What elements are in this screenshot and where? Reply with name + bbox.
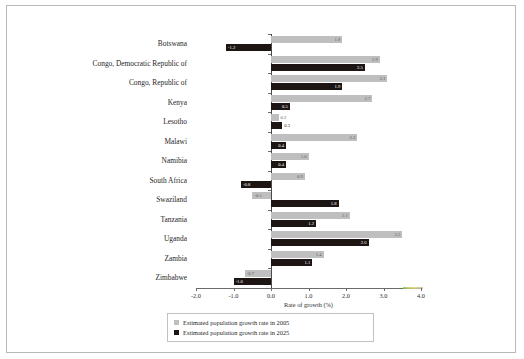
- legend-label-2005: Estimated population growth rate in 2005: [183, 319, 289, 326]
- plot-area: 1.9-1.22.92.53.11.92.70.50.20.32.30.41.0…: [196, 34, 421, 288]
- category-label: Zambia: [164, 249, 187, 269]
- category-label: Congo, Republic of: [129, 73, 187, 93]
- category-label: South Africa: [149, 171, 187, 191]
- category-label: Botswana: [158, 34, 187, 54]
- axis-tail-decoration: [403, 287, 423, 289]
- bar-value-label: 1.1: [305, 258, 311, 267]
- bar-value-label: 2.1: [342, 211, 348, 220]
- chart-row: 2.11.2: [196, 210, 421, 230]
- bar-value-label: 1.4: [316, 250, 322, 259]
- x-axis-tick: [309, 288, 310, 291]
- chart-row: 3.52.6: [196, 229, 421, 249]
- bar-2005: 2.7: [271, 95, 372, 102]
- chart-row: -0.51.8: [196, 190, 421, 210]
- bar-value-label: -0.7: [247, 269, 254, 278]
- category-label: Malawi: [164, 132, 187, 152]
- bar-2025: 0.3: [271, 122, 282, 129]
- bar-value-label: 2.6: [361, 238, 367, 247]
- x-axis-tick-label: 3.0: [380, 292, 388, 299]
- bar-2005: 1.4: [271, 251, 324, 258]
- x-axis-tick-label: 4.0: [417, 292, 425, 299]
- chart-row: 2.30.4: [196, 132, 421, 152]
- bar-value-label: -1.2: [228, 43, 235, 52]
- bar-2005: 3.5: [271, 231, 402, 238]
- category-label: Uganda: [164, 229, 187, 249]
- bar-2025: -0.8: [241, 181, 271, 188]
- x-axis-tick: [234, 288, 235, 291]
- bar-value-label: 0.3: [284, 121, 290, 130]
- chart-row: 2.70.5: [196, 93, 421, 113]
- category-axis: BotswanaCongo, Democratic Republic ofCon…: [17, 34, 192, 288]
- bar-value-label: -1.0: [236, 277, 243, 286]
- bar-value-label: 0.9: [297, 172, 303, 181]
- bar-2025: 1.1: [271, 259, 312, 266]
- bar-2025: 2.6: [271, 239, 369, 246]
- bar-2005: 2.9: [271, 56, 380, 63]
- legend-item-2005: Estimated population growth rate in 2005: [174, 317, 367, 327]
- bar-2025: -1.2: [226, 44, 271, 51]
- x-axis-tick: [196, 288, 197, 291]
- chart-figure: BotswanaCongo, Democratic Republic ofCon…: [6, 5, 516, 353]
- category-label: Congo, Democratic Republic of: [93, 54, 187, 74]
- x-axis-tick-label: 1.0: [305, 292, 313, 299]
- bar-2025: -1.0: [234, 278, 272, 285]
- bar-2005: 2.3: [271, 134, 357, 141]
- bar-2005: -0.5: [252, 192, 271, 199]
- legend-item-2025: Estimated population growth rate in 2025: [174, 327, 367, 337]
- category-label: Lesotho: [163, 112, 187, 132]
- chart-row: 0.9-0.8: [196, 171, 421, 191]
- bar-value-label: 3.1: [380, 74, 386, 83]
- category-label: Zimbabwe: [155, 268, 187, 288]
- bar-2005: 3.1: [271, 75, 387, 82]
- bar-value-label: 2.7: [365, 94, 371, 103]
- x-axis-tick-label: 2.0: [342, 292, 350, 299]
- category-label: Kenya: [168, 93, 187, 113]
- chart-row: 1.00.4: [196, 151, 421, 171]
- x-axis-tick: [384, 288, 385, 291]
- chart-row: 3.11.9: [196, 73, 421, 93]
- x-axis-tick: [271, 288, 272, 291]
- bar-value-label: -0.5: [254, 191, 261, 200]
- chart-row: 1.9-1.2: [196, 34, 421, 54]
- bar-2025: 1.2: [271, 220, 316, 227]
- bar-value-label: 1.9: [335, 35, 341, 44]
- legend-swatch-2005: [174, 320, 179, 325]
- legend-label-2025: Estimated population growth rate in 2025: [183, 329, 289, 336]
- bar-2025: 0.5: [271, 103, 290, 110]
- x-axis-title: Rate of growth (%): [196, 301, 421, 308]
- bar-2005: 2.1: [271, 212, 350, 219]
- legend-swatch-2025: [174, 330, 179, 335]
- x-axis-tick: [346, 288, 347, 291]
- bar-value-label: 1.0: [301, 152, 307, 161]
- bar-2005: 0.2: [271, 114, 279, 121]
- category-label: Namibia: [162, 151, 187, 171]
- bar-2025: 1.9: [271, 83, 342, 90]
- bar-value-label: 2.3: [350, 133, 356, 142]
- bar-2025: 0.4: [271, 142, 286, 149]
- bar-value-label: 1.9: [335, 82, 341, 91]
- bar-value-label: 0.4: [278, 160, 284, 169]
- bar-value-label: 0.4: [278, 141, 284, 150]
- chart-row: -0.7-1.0: [196, 268, 421, 288]
- bar-2005: -0.7: [245, 270, 271, 277]
- x-axis-tick: [421, 288, 422, 291]
- x-axis-tick-label: -2.0: [191, 292, 201, 299]
- bar-value-label: -0.8: [243, 180, 250, 189]
- bar-2025: 1.8: [271, 200, 339, 207]
- x-axis-tick-label: 0.0: [267, 292, 275, 299]
- bar-2005: 0.9: [271, 173, 305, 180]
- bar-2025: 0.4: [271, 161, 286, 168]
- bar-value-label: 0.5: [282, 102, 288, 111]
- bar-value-label: 1.8: [331, 199, 337, 208]
- chart-row: 0.20.3: [196, 112, 421, 132]
- bar-2005: 1.9: [271, 36, 342, 43]
- bar-2025: 2.5: [271, 64, 365, 71]
- x-axis-tick-label: -1.0: [229, 292, 239, 299]
- category-label: Swaziland: [156, 190, 187, 210]
- bar-value-label: 3.5: [395, 230, 401, 239]
- bar-2005: 1.0: [271, 153, 309, 160]
- bar-value-label: 1.2: [308, 219, 314, 228]
- chart-row: 2.92.5: [196, 54, 421, 74]
- bar-value-label: 2.9: [372, 55, 378, 64]
- chart-legend: Estimated population growth rate in 2005…: [167, 313, 374, 342]
